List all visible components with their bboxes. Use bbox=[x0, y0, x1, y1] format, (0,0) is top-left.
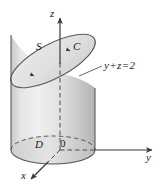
figure-canvas bbox=[0, 0, 161, 194]
axis-label-y: y bbox=[146, 152, 151, 163]
equation-leader-line bbox=[79, 66, 102, 76]
axis-label-x: x bbox=[21, 170, 26, 181]
equation-value: 2 bbox=[130, 59, 136, 71]
base-disk-D bbox=[11, 136, 95, 164]
plane-equation-label: y+z=2 bbox=[104, 60, 135, 71]
origin-label: 0 bbox=[60, 138, 66, 149]
surface-label-s: S bbox=[36, 41, 42, 52]
math-figure: z S C D 0 y x y+z=2 bbox=[0, 0, 161, 194]
axis-label-z: z bbox=[50, 8, 54, 19]
region-label-d: D bbox=[35, 139, 43, 150]
equation-operator-equals: = bbox=[121, 59, 129, 71]
curve-label-c: C bbox=[73, 41, 80, 52]
x-axis-visible-segment bbox=[31, 162, 48, 179]
equation-operator-plus: + bbox=[109, 59, 117, 71]
